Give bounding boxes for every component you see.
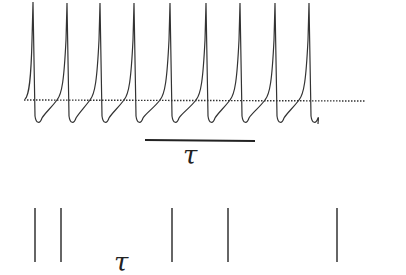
spike-raster	[35, 208, 337, 262]
threshold-dotted-line	[24, 100, 365, 101]
scale-bar-label: τ	[183, 140, 197, 170]
spike-trace	[25, 2, 318, 124]
raster-label: τ	[114, 247, 128, 275]
membrane-potential-path	[25, 2, 318, 124]
time-scale-bar	[145, 140, 255, 141]
